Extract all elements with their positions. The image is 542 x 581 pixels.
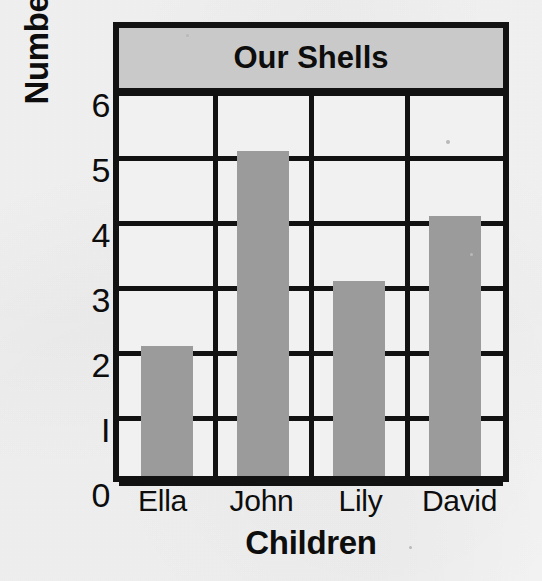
scan-speck	[446, 140, 450, 144]
chart-title: Our Shells	[233, 40, 388, 76]
y-tick-5: 5	[62, 153, 110, 187]
scan-speck	[186, 34, 189, 37]
y-tick-4: 4	[62, 218, 110, 252]
gridline-vertical	[405, 93, 410, 476]
y-tick-1: I	[62, 413, 110, 447]
x-axis-tick-labels: EllaJohnLilyDavid	[113, 484, 509, 524]
x-tick-lily: Lily	[311, 484, 410, 524]
chart-frame: Our Shells	[113, 22, 509, 482]
bar-david	[429, 216, 482, 476]
scan-speck	[409, 546, 412, 549]
bar-lily	[333, 281, 386, 476]
x-tick-david: David	[410, 484, 509, 524]
y-tick-2: 2	[62, 348, 110, 382]
y-axis-title: Number of Shells	[14, 0, 60, 158]
chart-title-band: Our Shells	[119, 28, 503, 93]
scan-speck	[470, 253, 473, 256]
worksheet-page: Number of Shells 0I23456 Our Shells Ella…	[0, 0, 542, 581]
y-tick-0: 0	[62, 478, 110, 512]
y-axis-tick-labels: 0I23456	[62, 93, 110, 481]
x-axis-title: Children	[113, 524, 509, 562]
bar-ella	[141, 346, 194, 476]
gridline-vertical	[309, 93, 314, 476]
bar-john	[237, 151, 290, 476]
x-tick-john: John	[212, 484, 311, 524]
gridline-vertical	[213, 93, 218, 476]
x-tick-ella: Ella	[113, 484, 212, 524]
y-tick-3: 3	[62, 283, 110, 317]
y-tick-6: 6	[62, 88, 110, 122]
plot-area	[119, 93, 503, 476]
